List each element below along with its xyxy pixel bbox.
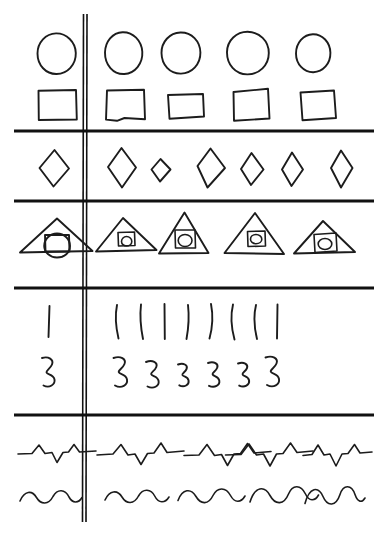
vertical-stroke-copy-5 <box>210 304 213 339</box>
square-copy-1 <box>106 90 145 121</box>
wave-copy-2 <box>178 489 245 503</box>
diamond-copy-1 <box>108 148 136 188</box>
vertical-divider-stroke-left <box>83 14 84 522</box>
triangle-inner-circle <box>318 239 332 250</box>
triangle-copy-3 <box>225 213 285 254</box>
triangle-inner-circle <box>122 237 132 247</box>
diamond-copy-2 <box>152 159 171 182</box>
vertical-stroke-copy-1 <box>116 305 119 339</box>
triangle-inner-circle <box>178 235 192 247</box>
zigzag-copy-4 <box>303 445 372 467</box>
triangle-copy-4 <box>294 221 355 254</box>
numeral-three-copy-3 <box>178 364 189 386</box>
rule-group <box>14 131 374 415</box>
vertical-stroke-copy-2 <box>140 305 143 340</box>
triangle-inner-circle <box>44 234 70 258</box>
triangle-copy-1 <box>96 218 157 252</box>
diamond-copy-4 <box>241 153 264 185</box>
circle-copy-2 <box>161 32 200 73</box>
circle-copy-3 <box>227 32 269 75</box>
square-prototype <box>39 90 77 120</box>
triangle-inner-circle <box>251 235 262 244</box>
diamond-copy-6 <box>331 151 353 188</box>
drawing-sheet <box>0 0 388 535</box>
vertical-stroke-prototype <box>49 306 50 337</box>
numeral-three-copy-4 <box>208 362 219 386</box>
zigzag-prototype <box>18 445 96 463</box>
diamond-copy-3 <box>198 149 226 188</box>
vertical-stroke-copy-8 <box>277 305 278 339</box>
square-copy-4 <box>301 91 337 121</box>
vertical-divider <box>83 14 88 522</box>
diamond-prototype <box>40 150 70 187</box>
numeral-three-copy-2 <box>146 361 159 388</box>
vertical-divider-stroke-right <box>86 14 87 522</box>
square-copy-2 <box>168 94 204 119</box>
numeral-three-copy-5 <box>238 363 249 387</box>
circle-copy-1 <box>105 32 142 74</box>
wave-copy-1 <box>105 490 169 502</box>
band-zigzags-and-waves <box>18 443 372 504</box>
triangle-prototype <box>20 219 93 258</box>
circle-copy-4 <box>296 34 330 72</box>
square-copy-3 <box>234 89 270 121</box>
numeral-three-copy-6 <box>266 357 280 387</box>
wave-copy-4 <box>305 487 365 504</box>
vertical-stroke-copy-7 <box>254 305 257 339</box>
vertical-stroke-copy-4 <box>187 305 189 339</box>
vertical-stroke-copy-6 <box>231 305 234 340</box>
circle-prototype <box>38 33 76 74</box>
row-waves <box>20 487 365 504</box>
triangle-outline <box>225 213 285 254</box>
triangle-outline <box>294 221 355 254</box>
band-strokes-and-threes <box>42 304 279 388</box>
numeral-three-prototype <box>42 357 55 386</box>
row-circles <box>38 32 331 75</box>
triangle-inner-square <box>118 232 135 246</box>
diamond-copy-5 <box>282 153 303 187</box>
band-triangles <box>20 213 355 258</box>
row-zigzags <box>18 443 372 466</box>
wave-prototype <box>20 491 82 503</box>
zigzag-copy-3 <box>226 443 314 466</box>
sheet-canvas <box>0 0 388 535</box>
numeral-three-copy-1 <box>114 357 128 387</box>
zigzag-copy-1 <box>97 443 184 465</box>
row-threes <box>42 357 279 388</box>
triangle-copy-2 <box>159 213 209 254</box>
band-circles-and-squares <box>38 32 337 121</box>
